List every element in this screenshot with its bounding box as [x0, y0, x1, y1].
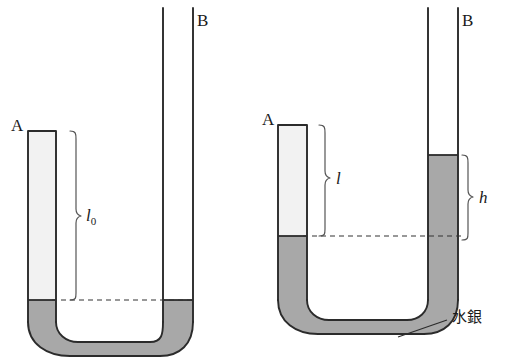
- right-brace-l: [319, 125, 330, 236]
- left-mercury-fill: [28, 300, 193, 356]
- left-length-label: l0: [86, 207, 96, 227]
- left-length-subscript: 0: [91, 215, 97, 227]
- right-u-inner-wall: [307, 300, 428, 320]
- right-gas-column: [278, 125, 307, 236]
- left-brace-l0: [70, 131, 81, 300]
- right-tube-a-label: A: [262, 111, 274, 128]
- mercury-annotation-label: 水銀: [452, 310, 482, 325]
- figure-canvas: A B l0 A B l h 水銀: [0, 0, 506, 362]
- left-u-inner-wall: [56, 322, 163, 342]
- left-tube-b-label: B: [197, 12, 208, 29]
- right-brace-h: [462, 155, 473, 240]
- right-length-label: l: [336, 170, 341, 187]
- right-height-label: h: [479, 189, 488, 206]
- left-gas-column: [28, 131, 56, 300]
- right-diagram: [278, 8, 473, 337]
- left-tube-b-outline: [163, 8, 193, 322]
- left-diagram: [28, 8, 196, 356]
- right-tube-b-label: B: [462, 12, 473, 29]
- manometer-figure: [0, 0, 506, 362]
- left-tube-a-label: A: [11, 117, 23, 134]
